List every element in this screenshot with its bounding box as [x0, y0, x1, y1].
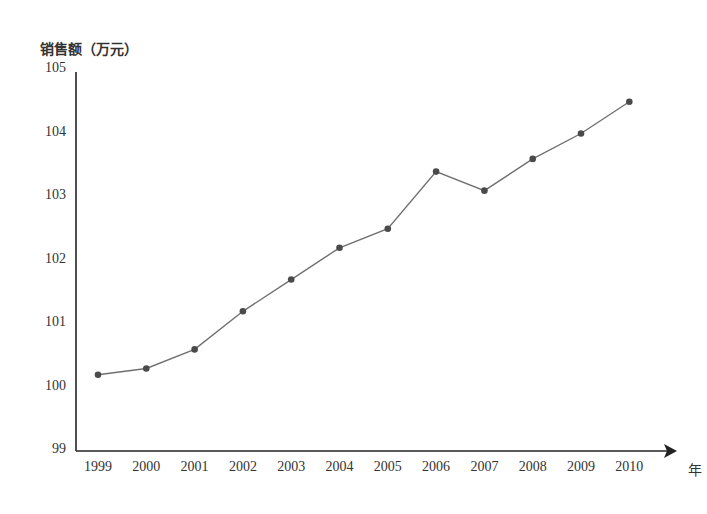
x-tick-label: 2004	[320, 459, 360, 475]
y-tick-label: 102	[30, 251, 66, 267]
x-tick-label: 2006	[416, 459, 456, 475]
data-point	[95, 372, 102, 379]
x-tick-label: 2003	[271, 459, 311, 475]
y-tick-label: 101	[30, 314, 66, 330]
data-point	[385, 225, 392, 232]
data-point	[578, 130, 585, 137]
data-point	[336, 245, 343, 252]
x-tick-label: 2005	[368, 459, 408, 475]
x-tick-label: 2008	[513, 459, 553, 475]
x-axis-unit: 年	[688, 459, 702, 479]
x-tick-label: 2010	[609, 459, 649, 475]
x-tick-label: 1999	[78, 459, 118, 475]
data-point	[529, 156, 536, 163]
y-tick-label: 99	[30, 441, 66, 457]
y-tick-label: 103	[30, 187, 66, 203]
data-line	[98, 102, 629, 375]
data-point	[626, 98, 633, 105]
y-tick-label: 104	[30, 124, 66, 140]
y-tick-label: 100	[30, 378, 66, 394]
data-point	[481, 187, 488, 194]
data-point	[240, 308, 247, 315]
x-tick-label: 2007	[464, 459, 504, 475]
data-point	[191, 346, 198, 353]
line-chart	[0, 0, 707, 514]
y-tick-label: 105	[30, 60, 66, 76]
data-point	[288, 276, 295, 283]
x-tick-label: 2001	[175, 459, 215, 475]
x-tick-label: 2009	[561, 459, 601, 475]
data-point	[433, 168, 440, 175]
data-point	[143, 365, 150, 372]
x-tick-label: 2000	[126, 459, 166, 475]
y-axis-title: 销售额（万元）	[40, 38, 138, 58]
x-tick-label: 2002	[223, 459, 263, 475]
plot-area	[95, 98, 633, 378]
